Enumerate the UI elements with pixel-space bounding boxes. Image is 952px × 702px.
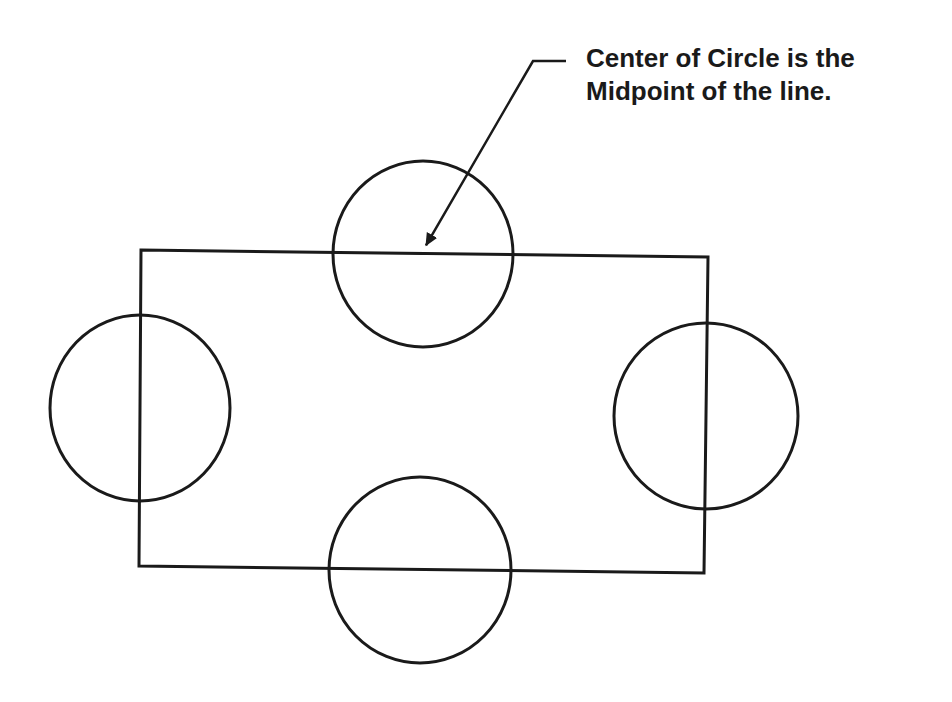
annotation-line-1: Center of Circle is the [586, 42, 855, 75]
annotation-line-2: Midpoint of the line. [586, 75, 855, 108]
rectangle [139, 250, 708, 573]
annotation-callout: Center of Circle is the Midpoint of the … [586, 42, 855, 108]
leader-arrow-icon [426, 61, 566, 245]
